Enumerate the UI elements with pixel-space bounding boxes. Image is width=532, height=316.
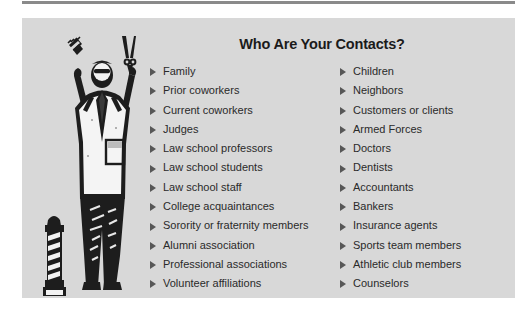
top-horizontal-rule	[22, 1, 515, 4]
list-item: Judges	[150, 120, 340, 139]
list-item-label: Counselors	[353, 274, 409, 293]
list-item: Children	[340, 62, 510, 81]
triangle-right-icon	[150, 165, 156, 173]
triangle-right-icon	[340, 87, 346, 95]
list-item: Law school professors	[150, 139, 340, 158]
list-item-label: Prior coworkers	[163, 81, 239, 100]
list-item-label: Sorority or fraternity members	[163, 216, 308, 235]
comb-icon	[68, 37, 83, 55]
triangle-right-icon	[340, 107, 346, 115]
list-item-label: Sports team members	[353, 236, 461, 255]
list-item: Volunteer affiliations	[150, 274, 340, 293]
triangle-right-icon	[340, 126, 346, 134]
list-item: Current coworkers	[150, 101, 340, 120]
list-item-label: Neighbors	[353, 81, 403, 100]
list-item: Doctors	[340, 139, 510, 158]
barber-illustration	[30, 24, 170, 296]
page-title: Who Are Your Contacts?	[150, 36, 510, 52]
barber-pole-icon	[43, 216, 66, 296]
triangle-right-icon	[150, 68, 156, 76]
triangle-right-icon	[340, 184, 346, 192]
triangle-right-icon	[340, 280, 346, 288]
list-item-label: Volunteer affiliations	[163, 274, 261, 293]
barber-trousers	[80, 196, 125, 290]
list-item: Family	[150, 62, 340, 81]
triangle-right-icon	[150, 203, 156, 211]
list-item: Counselors	[340, 274, 510, 293]
triangle-right-icon	[340, 165, 346, 173]
triangle-right-icon	[340, 203, 346, 211]
list-item: Professional associations	[150, 255, 340, 274]
triangle-right-icon	[340, 223, 346, 231]
list-item: College acquaintances	[150, 197, 340, 216]
list-item: Athletic club members	[340, 255, 510, 274]
list-item-label: Accountants	[353, 178, 414, 197]
list-item-label: Judges	[163, 120, 198, 139]
barber-head	[91, 61, 113, 89]
triangle-right-icon	[150, 184, 156, 192]
list-item: Prior coworkers	[150, 81, 340, 100]
triangle-right-icon	[340, 145, 346, 153]
list-item: Armed Forces	[340, 120, 510, 139]
triangle-right-icon	[340, 242, 346, 250]
triangle-right-icon	[150, 261, 156, 269]
list-item-label: Law school professors	[163, 139, 272, 158]
list-item-label: Armed Forces	[353, 120, 422, 139]
contacts-right-column: Children Neighbors Customers or clients …	[340, 62, 510, 294]
list-item: Sports team members	[340, 236, 510, 255]
triangle-right-icon	[150, 87, 156, 95]
list-item-label: Insurance agents	[353, 216, 437, 235]
triangle-right-icon	[150, 242, 156, 250]
list-item-label: Doctors	[353, 139, 391, 158]
triangle-right-icon	[150, 223, 156, 231]
triangle-right-icon	[340, 68, 346, 76]
triangle-right-icon	[150, 280, 156, 288]
list-item-label: Family	[163, 62, 195, 81]
list-item-label: Bankers	[353, 197, 393, 216]
contacts-left-column: Family Prior coworkers Current coworkers…	[150, 62, 340, 294]
contacts-content: Who Are Your Contacts? Family Prior cowo…	[150, 30, 510, 292]
contacts-figure-panel: Who Are Your Contacts? Family Prior cowo…	[22, 18, 515, 298]
list-item-label: Law school students	[163, 158, 263, 177]
list-item: Neighbors	[340, 81, 510, 100]
list-item: Alumni association	[150, 236, 340, 255]
page-root: Who Are Your Contacts? Family Prior cowo…	[0, 0, 532, 316]
list-item-label: College acquaintances	[163, 197, 274, 216]
list-item: Insurance agents	[340, 216, 510, 235]
list-item-label: Professional associations	[163, 255, 287, 274]
list-item-label: Law school staff	[163, 178, 242, 197]
list-item: Customers or clients	[340, 101, 510, 120]
barber-jacket	[75, 90, 130, 199]
list-item: Dentists	[340, 158, 510, 177]
list-item-label: Dentists	[353, 158, 393, 177]
list-item: Sorority or fraternity members	[150, 216, 340, 235]
list-item-label: Current coworkers	[163, 101, 253, 120]
list-item-label: Children	[353, 62, 394, 81]
list-item: Law school students	[150, 158, 340, 177]
triangle-right-icon	[150, 126, 156, 134]
list-item-label: Alumni association	[163, 236, 255, 255]
list-item-label: Athletic club members	[353, 255, 461, 274]
triangle-right-icon	[150, 107, 156, 115]
triangle-right-icon	[340, 261, 346, 269]
contacts-columns: Family Prior coworkers Current coworkers…	[150, 62, 510, 294]
list-item-label: Customers or clients	[353, 101, 453, 120]
list-item: Bankers	[340, 197, 510, 216]
list-item: Law school staff	[150, 178, 340, 197]
triangle-right-icon	[150, 145, 156, 153]
list-item: Accountants	[340, 178, 510, 197]
